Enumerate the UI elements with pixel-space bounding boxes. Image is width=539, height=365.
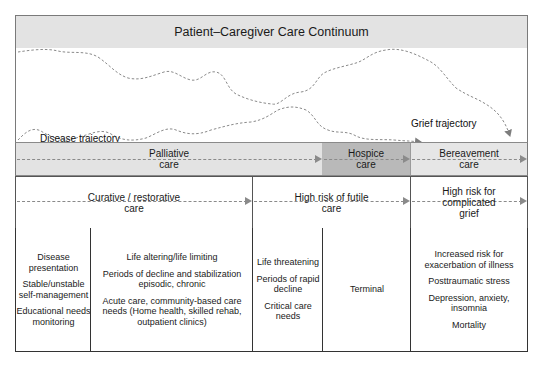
detail-item: Terminal [350, 284, 384, 295]
detail-item: Life threatening [257, 257, 319, 268]
futile-care-label: High risk of futile care [295, 192, 369, 214]
detail-cell-terminal: Terminal [322, 228, 411, 352]
detail-item: Mortality [452, 320, 486, 331]
detail-cell-critical: Life threatening Periods of rapid declin… [252, 228, 323, 352]
curative-care-label: Curative / restorative care [88, 192, 180, 214]
detail-item: Depression, anxiety, insomnia [419, 293, 519, 314]
complicated-grief-label: High risk for complicated grief [442, 186, 495, 219]
detail-item: Increased risk for exacerbation of illne… [419, 249, 519, 270]
detail-item: Life altering/life limiting [126, 252, 217, 263]
detail-item: Disease presentation [16, 252, 91, 273]
detail-item: Periods of decline and stabilization epi… [97, 269, 247, 290]
bereavement-care-label: Bereavement care [439, 148, 498, 170]
palliative-arrowhead-icon [315, 155, 322, 163]
grief-arrowhead-icon [520, 197, 527, 205]
palliative-care-label: Palliative care [149, 148, 189, 170]
hospice-care-label: Hospice care [348, 148, 384, 170]
complicated-grief-cell: High risk for complicated grief [410, 176, 528, 229]
bereavement-arrowhead-icon [520, 155, 527, 163]
diagram-title: Patient–Caregiver Care Continuum [15, 15, 528, 49]
detail-item: Periods of rapid decline [256, 274, 320, 295]
title-text: Patient–Caregiver Care Continuum [174, 25, 369, 39]
curative-arrowhead-icon [245, 197, 252, 205]
detail-item: Stable/unstable self-management [16, 279, 91, 300]
detail-item: Educational needs monitoring [16, 306, 91, 327]
futile-arrowhead-icon [403, 197, 410, 205]
hospice-arrowhead-icon [403, 155, 410, 163]
detail-cell-early: Disease presentation Stable/unstable sel… [15, 228, 91, 352]
detail-item: Critical care needs [256, 301, 320, 322]
grief-trajectory-label: Grief trajectory [411, 118, 477, 129]
detail-cell-bereavement: Increased risk for exacerbation of illne… [410, 228, 528, 352]
futile-care-cell: High risk of futile care [252, 176, 410, 229]
trajectory-area: Disease trajectory Grief trajectory [15, 48, 528, 143]
detail-item: Acute care, community-based care needs (… [97, 296, 247, 328]
detail-item: Posttraumatic stress [428, 276, 510, 287]
detail-cell-chronic: Life altering/life limiting Periods of d… [90, 228, 253, 352]
curative-care-cell: Curative / restorative care [15, 176, 252, 229]
